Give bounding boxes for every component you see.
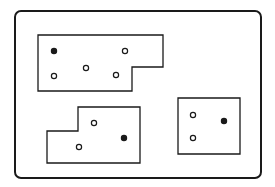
region-top-left (38, 35, 163, 91)
filled-dot (221, 118, 226, 123)
open-dot (51, 73, 56, 78)
regions-group (38, 35, 240, 163)
diagram-canvas (0, 0, 275, 187)
region-top-left-outline (38, 35, 163, 91)
filled-dot (51, 48, 56, 53)
open-dot (76, 144, 81, 149)
filled-dot (121, 135, 126, 140)
open-dot (190, 112, 195, 117)
region-bottom-left-outline (47, 107, 140, 163)
open-dot (190, 135, 195, 140)
open-dot (122, 48, 127, 53)
region-right (178, 98, 240, 154)
open-dot (83, 65, 88, 70)
open-dot (91, 120, 96, 125)
region-bottom-left (47, 107, 140, 163)
open-dot (113, 72, 118, 77)
region-right-outline (178, 98, 240, 154)
outer-frame (15, 11, 261, 178)
